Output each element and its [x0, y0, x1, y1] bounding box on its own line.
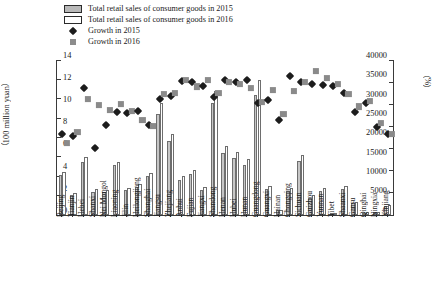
tick-label: 14 [63, 52, 71, 60]
legend-label-growth-2015: Growth in 2015 [88, 26, 140, 36]
x-axis-label-fujian: Fujian [187, 198, 195, 217]
bar-group [59, 60, 68, 215]
x-axis-label-guizhou: Guizhou [306, 191, 314, 217]
x-axis-label-sichuan: Sichuan [295, 193, 303, 217]
legend-label-bar-2016: Total retail sales of consumer goods in … [88, 15, 233, 25]
x-axis-label-zhejiang: Zhejiang [165, 190, 173, 217]
chart-legend: Total retail sales of consumer goods in … [62, 3, 322, 47]
x-axis-label-chongqing: Chongqing [284, 183, 292, 217]
x-axis-label-henan: Henan [219, 197, 227, 217]
legend-item-growth-2016: Growth in 2016 [62, 36, 322, 47]
x-axis-labels: BeijingTianjinHebeiShanxiNei MongolLiaon… [56, 217, 392, 287]
y-axis-right-title: （%） [424, 70, 434, 93]
x-axis-label-xinjiang: Xinjiang [382, 190, 390, 217]
x-axis-label-heilongjiang: Heilongjiang [133, 177, 141, 217]
legend-item-bar-2015: Total retail sales of consumer goods in … [62, 3, 322, 14]
legend-square-marker-icon [62, 39, 84, 45]
x-axis-label-tianjin: Tianjin [68, 195, 76, 217]
x-axis-label-yunnan: Yunnan [317, 194, 325, 217]
bar-group [351, 60, 360, 215]
legend-item-growth-2015: Growth in 2015 [62, 25, 322, 36]
bar-group [81, 60, 90, 215]
legend-diamond-marker-icon [62, 28, 84, 34]
x-axis-label-liaoning: Liaoning [111, 190, 119, 217]
legend-swatch-bar-2016-icon [62, 16, 84, 24]
x-axis-label-jiangsu: Jiangsu [154, 194, 162, 217]
growth-2016-marker [389, 131, 395, 137]
x-axis-label-gansu: Gansu [349, 198, 357, 217]
x-axis-label-nei-mongol: Nei Mongol [100, 180, 108, 217]
retail-sales-growth-chart: Total retail sales of consumer goods in … [0, 0, 448, 288]
x-axis-label-hunan: Hunan [241, 197, 249, 217]
x-axis-label-guangdong: Guangdong [252, 182, 260, 217]
x-axis-label-guangxi: Guangxi [263, 191, 271, 217]
x-axis-label-tibet: Tibet [328, 201, 336, 217]
x-axis-label-hebei: Hebei [78, 199, 86, 217]
x-axis-label-shanghai: Shanghai [144, 189, 152, 217]
legend-label-bar-2015: Total retail sales of consumer goods in … [88, 4, 233, 14]
x-axis-label-qinghai: Qinghai [360, 193, 368, 217]
x-axis-label-jiangxi: Jiangxi [198, 195, 206, 217]
x-axis-label-shaanxi: Shaanxi [339, 193, 347, 217]
x-axis-label-shanxi: Shanxi [89, 196, 97, 217]
x-axis-label-shandong: Shandong [209, 187, 217, 217]
x-axis-label-anhui: Anhui [176, 198, 184, 217]
legend-label-growth-2016: Growth in 2016 [88, 37, 140, 47]
x-axis-label-hubei: Hubei [230, 198, 238, 217]
legend-item-bar-2016: Total retail sales of consumer goods in … [62, 14, 322, 25]
tick-label: 40000 [366, 52, 387, 60]
x-axis-label-ningxia: Ningxia [371, 193, 379, 217]
x-axis-label-hainan: Hainan [274, 195, 282, 217]
legend-swatch-bar-2015-icon [62, 5, 84, 13]
x-axis-label-jilin: Jilin [122, 204, 130, 217]
y-axis-left-title: （100 million yuan） [2, 78, 14, 151]
x-axis-label-beijing: Beijing [57, 195, 65, 217]
